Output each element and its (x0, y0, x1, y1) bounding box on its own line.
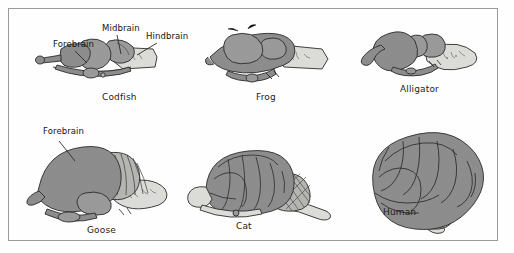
cat-brain-illustration (184, 137, 344, 227)
caption-goose: Goose (87, 225, 116, 235)
caption-frog: Frog (256, 92, 276, 102)
specimen-panel-frog (204, 23, 344, 93)
brain-comparison-figure: Forebrain Midbrain Hindbrain Codfish (0, 0, 514, 253)
alligator-brain-illustration (359, 21, 494, 86)
goose-leader-lines (9, 119, 209, 189)
frog-brain-illustration (204, 23, 344, 93)
caption-cat: Cat (236, 221, 252, 231)
specimen-panel-cat (184, 137, 344, 227)
human-brain-illustration (359, 127, 499, 237)
specimen-panel-alligator (359, 21, 494, 86)
caption-human: Human (383, 207, 416, 217)
figure-frame: Forebrain Midbrain Hindbrain Codfish (8, 8, 498, 241)
caption-codfish: Codfish (102, 92, 137, 102)
caption-alligator: Alligator (400, 84, 439, 94)
specimen-panel-human (359, 127, 499, 237)
